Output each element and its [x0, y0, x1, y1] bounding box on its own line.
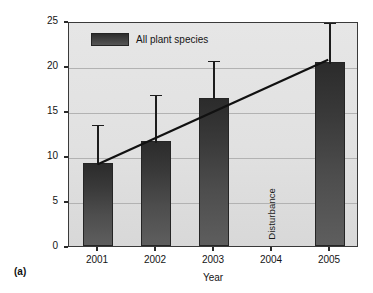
x-tick-label: 2005: [307, 254, 351, 265]
x-tick-mark: [328, 247, 329, 251]
y-tick-label: 15: [38, 105, 58, 116]
legend-label-all-plant-species: All plant species: [136, 34, 208, 45]
x-tick-mark: [212, 247, 213, 251]
y-tick-label: 10: [38, 150, 58, 161]
x-tick-label: 2002: [133, 254, 177, 265]
x-tick-label: 2001: [75, 254, 119, 265]
x-tick-mark: [96, 247, 97, 251]
plot-area: Disturbance All plant species: [68, 22, 358, 247]
x-tick-mark: [154, 247, 155, 251]
trendline-segment: [98, 60, 328, 165]
chart-legend: All plant species: [91, 33, 208, 46]
figure-panel-a: Difference in species richness (connecte…: [0, 0, 373, 293]
x-tick-label: 2003: [191, 254, 235, 265]
disturbance-annotation: Disturbance: [266, 188, 277, 240]
legend-swatch-all-plant-species: [91, 33, 129, 46]
y-tick-label: 20: [38, 60, 58, 71]
y-tick-label: 25: [38, 15, 58, 26]
y-tick-label: 0: [38, 240, 58, 251]
y-tick-label: 5: [38, 195, 58, 206]
x-tick-label: 2004: [249, 254, 293, 265]
trendline: [69, 23, 357, 246]
x-tick-mark: [270, 247, 271, 251]
panel-tag: (a): [14, 266, 26, 277]
x-axis-label: Year: [68, 272, 358, 283]
